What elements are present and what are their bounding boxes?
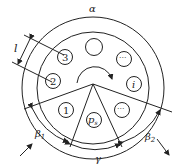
rotation-arrow: [77, 67, 112, 83]
slot-3-label: 3: [62, 52, 68, 63]
beta2-label: β2: [144, 131, 156, 144]
diagram-svg: 3 2 1 ··· ··· i ps α l β1 β2 γ: [0, 0, 182, 167]
beta1-label: β1: [34, 128, 45, 141]
slot-dots-top-label: ···: [119, 53, 127, 62]
gamma-label: γ: [95, 153, 101, 164]
slot-empty: [86, 39, 103, 56]
outbound-arrow: [157, 139, 169, 155]
slot-2-label: 2: [50, 76, 56, 87]
l-dimension: [18, 39, 30, 64]
l-label: l: [14, 42, 18, 55]
l-line-top: [24, 35, 64, 55]
sector-line-left: [24, 84, 93, 109]
slot-dots-bottom-label: ···: [117, 104, 125, 113]
gamma-arc: [70, 144, 120, 150]
slot-i-label: i: [132, 79, 135, 90]
alpha-label: α: [89, 3, 96, 14]
inbound-arrow: [20, 144, 32, 156]
diagram-canvas: 3 2 1 ··· ··· i ps α l β1 β2 γ: [0, 0, 182, 167]
slot-1-label: 1: [63, 105, 69, 116]
slot-ps-label: ps: [88, 114, 98, 126]
